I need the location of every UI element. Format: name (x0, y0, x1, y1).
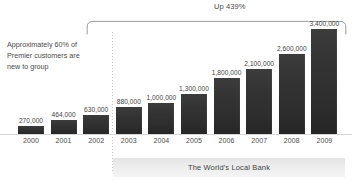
x-axis-tick-label: 2008 (279, 137, 305, 144)
bar (116, 107, 142, 134)
x-axis-tick-label: 2000 (18, 137, 44, 144)
bar (246, 69, 272, 134)
bar-value-label: 1,000,000 (147, 94, 177, 101)
footer-panel: The World's Local Bank (113, 158, 345, 177)
bar-column: 630,000 (83, 106, 109, 134)
bar-column: 3,400,000 (311, 20, 337, 134)
plot-area: 270,000464,000630,000880,0001,000,0001,3… (0, 24, 352, 134)
bar-value-label: 3,400,000 (310, 20, 340, 27)
x-axis-tick-label: 2006 (214, 137, 240, 144)
bar-value-label: 630,000 (84, 106, 108, 113)
bar-value-label: 2,600,000 (277, 45, 307, 52)
bar (148, 103, 174, 134)
bar-value-label: 270,000 (19, 117, 43, 124)
bar-value-label: 1,800,000 (212, 69, 242, 76)
bar (83, 115, 109, 134)
axis-baseline (0, 134, 352, 135)
bar-value-label: 2,100,000 (244, 60, 274, 67)
bar (51, 120, 77, 134)
bar-column: 2,100,000 (246, 60, 272, 134)
bar-column: 1,000,000 (148, 94, 174, 134)
bar-column: 2,600,000 (279, 45, 305, 134)
x-axis-tick-label: 2005 (181, 137, 207, 144)
growth-bracket-label: Up 439% (214, 2, 246, 11)
bar-column: 1,800,000 (214, 69, 240, 134)
bar-value-label: 1,300,000 (179, 85, 209, 92)
bar (214, 78, 240, 134)
bar-value-label: 880,000 (117, 98, 141, 105)
bar-column: 270,000 (18, 117, 44, 134)
footer-tagline: The World's Local Bank (113, 158, 345, 177)
x-axis-tick-label: 2001 (51, 137, 77, 144)
bar-column: 464,000 (51, 111, 77, 134)
bar (181, 94, 207, 134)
bar (279, 54, 305, 134)
x-axis-tick-label: 2002 (83, 137, 109, 144)
bar-column: 1,300,000 (181, 85, 207, 134)
x-axis-tick-label: 2009 (311, 137, 337, 144)
bar-chart: Up 439% Approximately 60% of Premier cus… (0, 0, 352, 181)
bar (18, 126, 44, 134)
bar (311, 29, 337, 134)
x-axis-tick-label: 2007 (246, 137, 272, 144)
x-axis-labels: 2000200120022003200420052006200720082009 (0, 137, 352, 151)
bar-value-label: 464,000 (52, 111, 76, 118)
x-axis-tick-label: 2003 (116, 137, 142, 144)
x-axis-tick-label: 2004 (148, 137, 174, 144)
bar-column: 880,000 (116, 98, 142, 134)
